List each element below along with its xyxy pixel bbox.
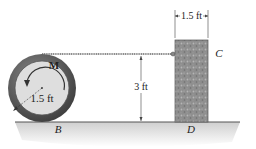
block (175, 40, 208, 122)
point-b-label: B (55, 123, 62, 135)
point-d-label: D (186, 123, 195, 135)
moment-label: M (49, 59, 60, 71)
cable-height-label: 3 ft (134, 81, 148, 92)
cable-height-dimension: 3 ft (128, 56, 151, 121)
diagram-canvas: M 1.5 ft 1.5 ft 3 ft C D B (0, 0, 256, 149)
cable-attachment (171, 52, 175, 56)
ground-shade (15, 122, 240, 147)
block-width-dimension: 1.5 ft (175, 10, 208, 38)
wheel-radius-label: 1.5 ft (30, 92, 53, 104)
wheel-center (41, 87, 43, 89)
ground (15, 122, 240, 147)
block-width-label: 1.5 ft (181, 10, 202, 21)
wheel: M 1.5 ft (8, 54, 76, 122)
point-c-label: C (215, 47, 223, 59)
